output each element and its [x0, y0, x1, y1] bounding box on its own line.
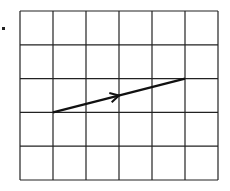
bullet-marker: [2, 27, 5, 30]
grid-diagram: [0, 0, 230, 191]
